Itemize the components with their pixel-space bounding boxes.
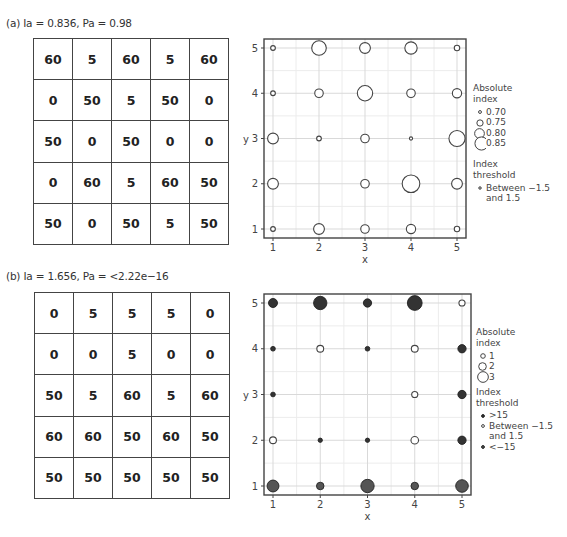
x-axis-label: x [365,511,371,522]
legend-symbol-icon [473,135,486,152]
data-point [363,299,371,307]
grid-cell: 0 [191,293,230,334]
grid-cell: 60 [152,416,191,457]
grid-row: 6060506050 [35,416,230,457]
grid-cell: 60 [191,375,230,416]
legend-symbol-icon [473,185,486,191]
data-point [409,137,412,140]
data-point [412,391,418,397]
legend-item: 0.70 [473,107,550,118]
grid-cell: 60 [74,416,113,457]
x-tick-label: 2 [317,499,323,510]
data-point [456,480,469,493]
data-point [407,296,422,311]
x-tick-label: 2 [316,242,322,253]
legend-label: 0.80 [486,128,506,139]
grid-cell: 60 [113,375,152,416]
grid-cell: 60 [35,416,74,457]
grid-cell: 50 [191,416,230,457]
data-point [458,390,466,398]
grid-cell: 50 [113,416,152,457]
legend-label: 0.75 [486,117,506,128]
x-tick-label: 4 [412,499,418,510]
grid-cell: 5 [113,334,152,375]
legend-symbol-icon [476,370,489,384]
legend-item: 3 [476,372,553,383]
data-point [314,224,325,235]
data-point [458,345,466,353]
x-axis-label: x [362,254,368,265]
x-tick-label: 1 [270,499,276,510]
grid-cell: 5 [113,293,152,334]
legend-item: 0.85 [473,139,550,150]
data-point [269,299,278,308]
legend-label: 1 [489,351,495,362]
data-point [452,178,463,189]
panel-a-plot: 1122334455xy [243,39,466,265]
data-point [361,225,370,234]
y-tick-label: 4 [252,88,258,99]
data-point [361,134,370,143]
legend-threshold-title: Indexthreshold [476,387,553,409]
legend-label: 2 [489,361,495,372]
data-point [357,86,372,101]
grid-cell: 50 [113,457,152,498]
panel-b-value-grid: 05550005005056056060605060505050505050 [34,292,230,499]
grid-row: 50560560 [35,375,230,416]
data-point [268,178,279,189]
data-point [365,346,370,351]
x-tick-label: 3 [364,499,370,510]
data-point [270,437,277,444]
legend-item: Between −1.5 [476,421,553,432]
data-point [452,89,461,98]
legend-symbol-icon [476,444,489,450]
grid-cell: 50 [35,457,74,498]
y-axis-label: y [243,134,249,145]
legend-label: Between −1.5 [486,183,550,194]
data-point [458,436,466,444]
grid-cell: 0 [74,334,113,375]
panel-a-legend: Absoluteindex 0.700.750.800.85 Indexthre… [473,83,550,204]
data-point [454,226,459,231]
data-point [271,46,276,51]
data-point [315,89,324,98]
data-point [411,345,418,352]
legend-symbol-icon [476,423,489,429]
legend-label: 0.70 [486,107,506,118]
legend-label: <−15 [489,442,516,453]
x-tick-label: 5 [459,499,465,510]
x-tick-label: 1 [270,242,276,253]
data-point [312,41,327,56]
data-point [361,479,374,492]
data-point [407,89,416,98]
grid-cell: 50 [191,457,230,498]
data-point [365,438,369,442]
legend-symbol-icon [476,352,489,360]
legend-label: 0.85 [486,138,506,149]
data-point [317,136,322,141]
panel-b-legend: Absoluteindex 123 Indexthreshold >15Betw… [476,327,553,453]
x-tick-label: 3 [362,242,368,253]
y-axis-label: y [243,390,249,401]
grid-cell: 50 [152,457,191,498]
data-point [459,300,465,306]
legend-symbol-icon [473,109,486,115]
data-point [271,346,276,351]
legend-item-continued: and 1.5 [476,432,553,443]
grid-cell: 50 [35,375,74,416]
grid-cell: 5 [152,293,191,334]
data-point [361,179,370,188]
data-point [268,133,279,144]
y-tick-label: 1 [252,224,258,235]
grid-cell: 50 [74,457,113,498]
legend-threshold-title: Indexthreshold [473,159,550,181]
data-point [318,438,322,442]
grid-cell: 5 [152,375,191,416]
legend-label: >15 [489,410,508,421]
data-point [360,43,371,54]
grid-cell: 0 [191,334,230,375]
grid-cell: 0 [35,334,74,375]
data-point [406,224,415,233]
data-point [271,392,276,397]
grid-row: 00500 [35,334,230,375]
